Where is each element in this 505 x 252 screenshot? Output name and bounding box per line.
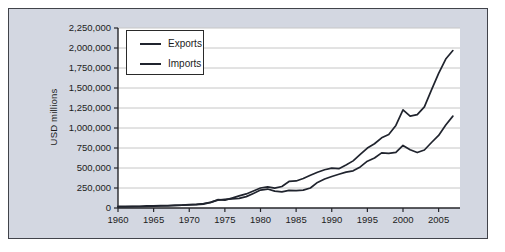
x-tick-label: 1980 xyxy=(250,214,271,225)
trade-line-chart: 0250,000500,000750,0001,000,0001,250,000… xyxy=(9,9,487,238)
x-tick-label: 1990 xyxy=(321,214,342,225)
exports-line-swatch xyxy=(140,43,161,45)
y-tick-label: 2,250,000 xyxy=(69,22,111,33)
x-tick-label: 1985 xyxy=(286,214,307,225)
legend-item-exports: Exports xyxy=(127,36,203,52)
y-tick-label: 500,000 xyxy=(77,162,111,173)
x-tick-label: 1960 xyxy=(107,214,128,225)
y-tick-label: 0 xyxy=(106,202,111,213)
legend-item-imports: Imports xyxy=(127,56,203,72)
y-tick-label: 1,250,000 xyxy=(69,102,111,113)
y-tick-label: 1,750,000 xyxy=(69,62,111,73)
legend-label-imports: Imports xyxy=(168,59,201,69)
y-tick-label: 250,000 xyxy=(77,182,111,193)
y-tick-label: 2,000,000 xyxy=(69,42,111,53)
y-tick-label: 1,500,000 xyxy=(69,82,111,93)
y-axis-title: USD millions xyxy=(48,89,59,146)
chart-legend: Exports Imports xyxy=(126,30,204,75)
y-tick-label: 1,000,000 xyxy=(69,122,111,133)
x-tick-label: 2005 xyxy=(428,214,449,225)
chart-figure: 0250,000500,000750,0001,000,0001,250,000… xyxy=(8,8,488,239)
x-tick-label: 2000 xyxy=(392,214,413,225)
legend-label-exports: Exports xyxy=(168,39,202,49)
x-tick-label: 1970 xyxy=(179,214,200,225)
imports-line-swatch xyxy=(140,63,161,65)
y-tick-label: 750,000 xyxy=(77,142,111,153)
x-tick-label: 1995 xyxy=(357,214,378,225)
x-tick-label: 1965 xyxy=(143,214,164,225)
x-tick-label: 1975 xyxy=(214,214,235,225)
